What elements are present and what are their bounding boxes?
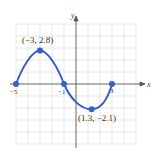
x-axis-label: x bbox=[146, 80, 151, 89]
y-axis-label: y bbox=[70, 11, 75, 20]
max-point-label: (−3, 2.8) bbox=[22, 35, 53, 45]
tick-label-3: 3 bbox=[110, 87, 114, 95]
tick-label-neg1: −1 bbox=[58, 88, 66, 96]
graph: x y −5 −1 3 (−3, 2.8) (1.3, −2.1) bbox=[0, 0, 156, 152]
min-point-label: (1.3, −2.1) bbox=[78, 113, 116, 123]
point-max bbox=[37, 47, 43, 53]
tick-label-neg5: −5 bbox=[10, 88, 18, 96]
y-axis-arrow-icon bbox=[74, 16, 78, 21]
x-axis-arrow-icon bbox=[140, 82, 145, 86]
point-neg5-0 bbox=[13, 81, 19, 87]
point-min bbox=[89, 106, 95, 112]
point-neg1-0 bbox=[61, 81, 67, 87]
